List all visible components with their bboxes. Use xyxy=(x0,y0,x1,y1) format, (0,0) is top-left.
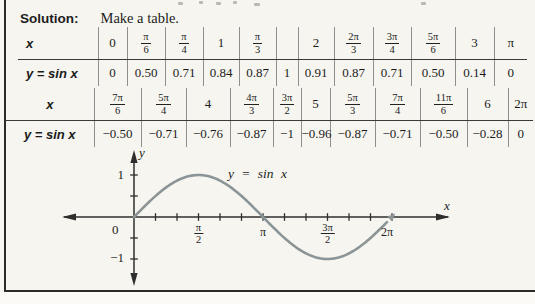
x-value-cell: 4 xyxy=(186,88,230,121)
clipped-text-remnant xyxy=(199,1,203,4)
solution-line: Solution:Make a table. xyxy=(20,9,179,27)
x-value-cell: 3π2 xyxy=(273,88,301,121)
y-value-cell: 0.87 xyxy=(239,60,276,87)
x-value-cell: 5π6 xyxy=(411,27,455,60)
textbook-page: Solution:Make a table. x0π6π41π322π33π45… xyxy=(0,0,535,304)
x-value-cell: 11π6 xyxy=(420,88,467,121)
curve-label: y = sin x xyxy=(228,166,287,182)
y-value-cell: 0 xyxy=(494,60,527,87)
x-tick-label: 2π xyxy=(381,225,393,240)
sine-table-1: x0π6π41π322π33π45π63πy = sin x00.500.710… xyxy=(18,27,527,86)
x-value-cell: π3 xyxy=(239,27,276,60)
y-axis-bottom-arrowhead xyxy=(130,273,137,286)
x-axis-right-arrowhead xyxy=(436,213,450,220)
x-axis-label: x xyxy=(444,198,450,214)
y-axis-top-arrowhead xyxy=(130,150,137,163)
row-label-x: x xyxy=(18,27,98,60)
x-value-cell: 2π xyxy=(508,88,533,121)
y-value-cell: −0.71 xyxy=(141,121,186,148)
x-value-cell: 1 xyxy=(203,27,239,60)
x-value-cell: 7π6 xyxy=(94,88,141,121)
x-tick-label: 3π2 xyxy=(320,222,335,246)
x-value-cell: 5π4 xyxy=(141,88,186,121)
clipped-text-remnant xyxy=(178,2,183,5)
y-value-cell: 0.14 xyxy=(455,60,494,87)
x-value-cell: 3 xyxy=(455,27,494,60)
x-value-cell: π6 xyxy=(127,27,165,60)
x-value-cell xyxy=(276,27,298,60)
solution-label: Solution: xyxy=(20,11,78,26)
row-label-x: x xyxy=(6,88,94,121)
x-value-cell: 4π3 xyxy=(230,88,273,121)
y-value-cell: 0 xyxy=(508,121,533,148)
y-value-cell: 0.50 xyxy=(411,60,455,87)
x-value-cell: π xyxy=(494,27,527,60)
y-value-cell: −1 xyxy=(273,121,301,148)
x-value-cell: 2 xyxy=(298,27,334,60)
y-value-cell: 0.87 xyxy=(334,60,373,87)
sine-graph: yx1−10y = sin xπ2π3π22π xyxy=(0,146,535,294)
y-value-cell: 1 xyxy=(276,60,298,87)
x-tick-label: π xyxy=(260,225,266,240)
clipped-text-remnant xyxy=(421,2,426,5)
x-value-cell: 0 xyxy=(98,27,127,60)
y-tick-label-neg1: −1 xyxy=(96,250,124,266)
y-axis-label: y xyxy=(139,145,145,161)
origin-label: 0 xyxy=(112,222,119,238)
solution-text: Make a table. xyxy=(100,10,179,26)
y-value-cell: −0.76 xyxy=(186,121,230,148)
y-value-cell: −0.71 xyxy=(375,121,420,148)
y-tick-label-1: 1 xyxy=(108,167,124,183)
x-value-cell: 6 xyxy=(467,88,508,121)
y-value-cell: −0.28 xyxy=(467,121,508,148)
y-value-cell: −0.96 xyxy=(301,121,330,148)
y-value-cell: 0.71 xyxy=(373,60,411,87)
y-value-cell: −0.87 xyxy=(330,121,375,148)
y-value-cell: 0.50 xyxy=(127,60,165,87)
y-value-cell: 0.91 xyxy=(298,60,334,87)
y-value-cell: −0.50 xyxy=(94,121,141,148)
sine-table-2: x7π65π444π33π255π37π411π662πy = sin x−0.… xyxy=(6,88,533,147)
row-label-y: y = sin x xyxy=(18,60,98,87)
y-value-cell: 0.71 xyxy=(165,60,203,87)
y-value-cell: 0 xyxy=(98,60,127,87)
y-value-cell: −0.50 xyxy=(420,121,467,148)
page-margin xyxy=(0,292,535,304)
x-axis-left-arrowhead xyxy=(62,213,76,220)
clipped-text-remnant xyxy=(254,3,260,6)
x-value-cell: 5π3 xyxy=(330,88,375,121)
x-value-cell: 3π4 xyxy=(373,27,411,60)
x-value-cell: 7π4 xyxy=(375,88,420,121)
clipped-text-remnant xyxy=(216,2,221,5)
row-label-y: y = sin x xyxy=(6,121,94,148)
x-value-cell: 5 xyxy=(301,88,330,121)
x-value-cell: 2π3 xyxy=(334,27,373,60)
y-value-cell: 0.84 xyxy=(203,60,239,87)
clipped-text-remnant xyxy=(233,1,237,4)
x-value-cell: π4 xyxy=(165,27,203,60)
y-value-cell: −0.87 xyxy=(230,121,273,148)
x-tick-label: π2 xyxy=(194,222,203,246)
